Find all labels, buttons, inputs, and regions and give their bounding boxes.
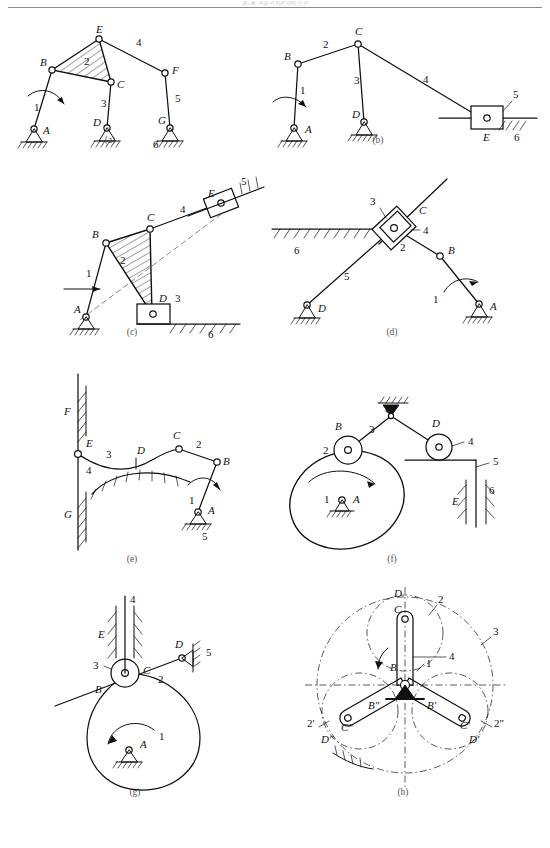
label-C: C	[394, 603, 402, 615]
link-number-6: 6	[489, 484, 495, 496]
header-title: 第2章 平面机构的结构分析	[0, 0, 550, 6]
caption-e: (e)	[112, 554, 152, 564]
link-number-2: 2	[84, 55, 90, 67]
link-number-3: 3	[175, 292, 181, 304]
link-number-5: 5	[241, 175, 247, 187]
link-number-3: 3	[354, 74, 360, 86]
link-number-3: 3	[493, 625, 499, 637]
link-number-1: 1	[426, 657, 432, 669]
link-number-3: 3	[106, 448, 112, 460]
label-B: B	[92, 228, 99, 240]
leader-5	[476, 463, 489, 467]
label-C: C	[385, 403, 393, 415]
caption-d: (d)	[372, 327, 412, 337]
label-B: B	[390, 661, 397, 673]
label-A: A	[139, 738, 147, 750]
curved-link-3	[78, 449, 179, 469]
cam-surface-4	[92, 473, 190, 494]
label-A: A	[73, 303, 81, 315]
ground-support-A	[463, 301, 492, 323]
link-number-2: 2	[323, 444, 329, 456]
caption-b: (b)	[358, 135, 398, 145]
label-B: B	[335, 420, 342, 432]
figure-a: E B C F A D G 1 2 3 4 5 6 (a)	[10, 18, 260, 153]
link-number-3: 3	[93, 659, 99, 671]
ground-support-C	[378, 397, 408, 419]
figure-b: B C A D E 1 2 3 4 5 6 (b)	[265, 18, 540, 153]
figure-e: F E D C B A G 1 2 3 4 5 (e)	[12, 372, 277, 557]
link-number-3: 3	[370, 195, 376, 207]
label-D: D	[317, 302, 326, 314]
link-number-4: 4	[423, 224, 429, 236]
label-E: E	[482, 131, 490, 143]
link-number-2p: 2'	[307, 717, 315, 729]
label-Cpp: C"	[341, 721, 353, 733]
link-number-4: 4	[180, 203, 186, 215]
link-1	[86, 243, 106, 317]
link-2	[179, 449, 217, 462]
label-A: A	[352, 493, 360, 505]
joint-C	[355, 41, 361, 47]
leader-1	[417, 664, 424, 671]
label-C: C	[355, 25, 363, 37]
link-number-2: 2	[438, 593, 444, 605]
label-E: E	[95, 23, 103, 35]
link-number-5: 5	[206, 646, 212, 658]
joint-E	[484, 115, 490, 121]
label-A: A	[207, 504, 215, 516]
link-number-4: 4	[449, 650, 455, 662]
link-number-5: 5	[202, 530, 208, 542]
joint-D	[150, 311, 156, 317]
link-number-2: 2	[400, 241, 406, 253]
joint-C	[391, 225, 398, 232]
link-number-6: 6	[153, 138, 159, 150]
label-C: C	[147, 211, 155, 223]
label-E: E	[207, 187, 215, 199]
ground-hatch-h	[333, 746, 373, 769]
joint-D	[436, 444, 442, 450]
label-Dp: D'	[468, 733, 480, 745]
link-number-1: 1	[300, 84, 306, 96]
link-number-2pp: 2"	[494, 717, 504, 729]
ternary-link-2-body	[52, 39, 111, 82]
driver-arrow-d	[444, 279, 478, 292]
link-number-5: 5	[175, 92, 181, 104]
link-number-3: 3	[101, 97, 107, 109]
joint-E	[96, 36, 102, 42]
caption-h: (h)	[383, 787, 423, 797]
link-number-2: 2	[158, 673, 164, 685]
link-number-4: 4	[423, 73, 429, 85]
joint-F	[162, 70, 168, 76]
header-rule	[8, 7, 542, 8]
leader-5	[503, 101, 512, 111]
label-B: B	[40, 56, 47, 68]
label-Bpp: B"	[368, 699, 380, 711]
label-A: A	[42, 124, 50, 136]
label-A: A	[489, 300, 497, 312]
driver-arrow-b	[273, 97, 306, 107]
ground-support-A	[70, 314, 99, 335]
label-D: D	[136, 444, 145, 456]
link-number-3: 3	[369, 423, 375, 435]
link-number-1: 1	[189, 494, 195, 506]
joint-B	[49, 67, 55, 73]
leader-3	[380, 208, 386, 218]
link-number-2: 2	[323, 38, 329, 50]
label-C: C	[419, 204, 427, 216]
link-number-4: 4	[468, 435, 474, 447]
label-B: B	[95, 683, 102, 695]
ternary-link-2-body	[106, 229, 152, 314]
label-A: A	[304, 123, 312, 135]
label-D: D	[393, 587, 402, 599]
joint-B	[214, 459, 220, 465]
link-number-5: 5	[493, 455, 499, 467]
figure-d: C B D A 1 2 3 4 5 6 (d)	[272, 172, 537, 332]
link-number-4: 4	[86, 464, 92, 476]
label-G: G	[64, 508, 72, 520]
link-number-1: 1	[433, 293, 439, 305]
link-number-1: 1	[159, 730, 165, 742]
link-number-6: 6	[208, 328, 214, 340]
label-B: B	[448, 244, 455, 256]
label-G: G	[158, 114, 166, 126]
label-E: E	[451, 495, 459, 507]
